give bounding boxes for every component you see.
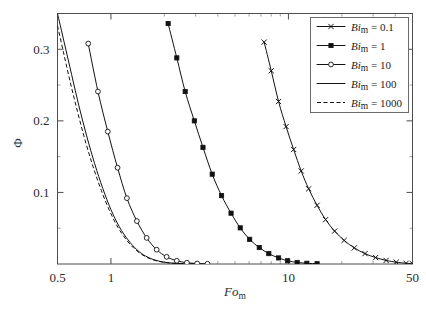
data-marker [248,237,252,241]
data-marker [323,217,328,222]
data-marker [291,147,296,152]
data-marker [201,145,205,149]
data-marker [195,261,200,266]
x-tick-label: 50 [406,270,419,285]
data-marker [238,226,242,230]
data-marker [315,262,319,266]
markers-series-1 [166,21,319,265]
data-marker [342,238,347,243]
chart-canvas: 0.511050 0.10.20.3 Fom Φ Bim = 0.1Bim = … [0,0,426,318]
data-marker [124,196,129,201]
data-marker [166,21,170,25]
data-marker [154,247,159,252]
data-marker [219,194,223,198]
data-marker [229,211,233,215]
markers-series-2 [86,41,210,266]
data-marker [329,43,333,47]
data-marker [205,261,210,266]
y-tick-labels: 0.10.20.3 [33,42,49,200]
x-axis-title: Fom [223,284,246,301]
data-marker [362,251,367,256]
data-marker [174,258,179,263]
y-tick-label: 0.1 [33,185,49,200]
data-marker [306,186,311,191]
data-marker [164,254,169,259]
data-marker [314,203,319,208]
data-marker [329,62,334,67]
data-marker [183,89,187,93]
data-marker [295,260,299,264]
figure-container: 0.511050 0.10.20.3 Fom Φ Bim = 0.1Bim = … [0,0,426,318]
data-marker [332,228,337,233]
y-tick-label: 0.3 [33,42,49,57]
data-marker [286,259,290,263]
data-marker [305,261,309,265]
data-marker [96,89,101,94]
data-marker [134,219,139,224]
data-marker [352,245,357,250]
x-tick-label: 10 [282,270,295,285]
data-marker [276,256,280,260]
legend: Bim = 0.1Bim = 1Bim = 10Bim = 100Bim = 1… [311,18,409,113]
data-marker [283,124,288,129]
data-marker [105,129,110,134]
curve-series-2 [88,44,207,264]
curve-series-4 [58,26,196,264]
y-tick-label: 0.2 [33,113,49,128]
y-axis-title: Φ [10,138,25,148]
data-marker [115,165,120,170]
data-marker [192,119,196,123]
x-tick-label: 0.5 [49,270,65,285]
data-marker [373,255,378,260]
data-marker [267,252,271,256]
data-marker [299,168,304,173]
x-tick-label: 1 [108,270,115,285]
data-marker [86,41,91,46]
x-tick-labels: 0.511050 [49,270,419,285]
data-marker [210,172,214,176]
data-marker [144,235,149,240]
data-marker [175,56,179,60]
data-marker [257,245,261,249]
